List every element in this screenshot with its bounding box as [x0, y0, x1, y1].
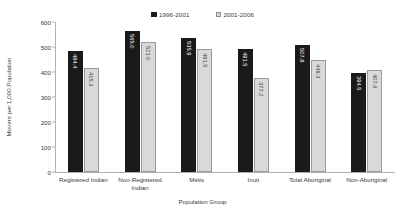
x-axis-category-label: Inuit: [225, 176, 282, 191]
bar-0[interactable]: 491.5: [238, 49, 253, 172]
bar-1[interactable]: 407.6: [367, 70, 382, 172]
y-axis-tick-label: 600: [41, 19, 51, 26]
bar-value-label: 491.5: [202, 53, 208, 68]
bar-1[interactable]: 491.5: [197, 49, 212, 172]
x-axis-category-label: Non-Registered Indian: [112, 176, 169, 191]
bar-1[interactable]: 521.0: [141, 42, 156, 172]
x-axis-title: Population Group: [0, 198, 405, 205]
bar-value-label: 415.3: [88, 72, 94, 87]
bar-value-label: 449.3: [315, 64, 321, 79]
x-axis-category-label: Registered Indian: [55, 176, 112, 191]
legend-item-series-1[interactable]: 2001-2006: [216, 11, 255, 18]
legend-item-series-0[interactable]: 1996-2001: [151, 11, 190, 18]
bar-value-label: 394.5: [356, 76, 362, 91]
bar-group: 565.0521.0: [112, 22, 169, 172]
y-axis-tick-label: 100: [41, 144, 51, 151]
x-axis-category-label: Non-Aboriginal: [338, 176, 395, 191]
bar-value-label: 565.0: [129, 34, 135, 49]
bar-0[interactable]: 484.4: [68, 51, 83, 172]
bar-value-label: 507.8: [299, 48, 305, 63]
bar-value-label: 491.5: [242, 52, 248, 67]
bar-group: 394.5407.6: [338, 22, 395, 172]
bar-value-label: 521.0: [145, 46, 151, 61]
bar-group: 507.8449.3: [282, 22, 339, 172]
bar-1[interactable]: 449.3: [311, 60, 326, 172]
y-axis-tick-label: 200: [41, 119, 51, 126]
x-axis-line: [55, 172, 395, 173]
x-axis-category-label: Métis: [168, 176, 225, 191]
bar-1[interactable]: 377.2: [254, 78, 269, 172]
bar-0[interactable]: 507.8: [295, 45, 310, 172]
bar-group: 535.9491.5: [168, 22, 225, 172]
chart-legend: 1996-2001 2001-2006: [0, 11, 405, 18]
bar-value-label: 535.9: [186, 41, 192, 56]
y-axis-title: Movers per 1,000 Population: [5, 57, 12, 136]
bar-value-label: 484.4: [72, 54, 78, 69]
bar-group: 484.4415.3: [55, 22, 112, 172]
legend-swatch-icon-series-1: [216, 12, 222, 18]
bar-0[interactable]: 535.9: [181, 38, 196, 172]
legend-label-series-1: 2001-2006: [224, 11, 255, 18]
bar-group: 491.5377.2: [225, 22, 282, 172]
bar-value-label: 377.2: [258, 82, 264, 97]
x-axis-category-label: Total Aboriginal: [282, 176, 339, 191]
bar-0[interactable]: 394.5: [351, 73, 366, 172]
bar-1[interactable]: 415.3: [84, 68, 99, 172]
y-axis-tick-label: 400: [41, 69, 51, 76]
bar-groups: 484.4415.3565.0521.0535.9491.5491.5377.2…: [55, 22, 395, 172]
y-axis-tick-label: 300: [41, 94, 51, 101]
y-axis-tick-label: 0: [48, 169, 51, 176]
bar-chart: 1996-2001 2001-2006 0100200300400500600 …: [0, 0, 405, 214]
legend-label-series-0: 1996-2001: [159, 11, 190, 18]
y-axis-tick-label: 500: [41, 44, 51, 51]
bar-0[interactable]: 565.0: [125, 31, 140, 172]
bar-value-label: 407.6: [372, 74, 378, 89]
legend-swatch-icon-series-0: [151, 12, 157, 18]
x-axis-category-labels: Registered IndianNon-Registered IndianMé…: [55, 176, 395, 191]
plot-area: 0100200300400500600 484.4415.3565.0521.0…: [55, 22, 395, 172]
